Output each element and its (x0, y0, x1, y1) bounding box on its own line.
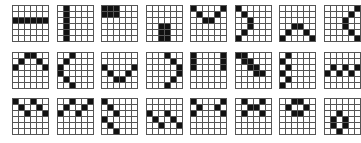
empty-cell (260, 59, 265, 64)
empty-cell (31, 123, 36, 128)
empty-cell (43, 123, 48, 128)
filled-cell (64, 30, 69, 35)
empty-cell (331, 77, 336, 82)
empty-cell (337, 6, 342, 11)
empty-cell (177, 12, 182, 17)
empty-cell (171, 129, 176, 134)
empty-cell (292, 18, 297, 23)
filled-cell (64, 105, 69, 110)
empty-cell (82, 24, 87, 29)
empty-cell (82, 65, 87, 70)
empty-cell (209, 36, 214, 41)
empty-cell (248, 6, 253, 11)
empty-cell (349, 83, 354, 88)
empty-cell (114, 83, 119, 88)
empty-cell (82, 117, 87, 122)
empty-cell (254, 36, 259, 41)
empty-cell (349, 99, 354, 104)
empty-cell (37, 129, 42, 134)
filled-cell (286, 105, 291, 110)
empty-cell (102, 36, 107, 41)
empty-cell (286, 6, 291, 11)
filled-cell (114, 129, 119, 134)
empty-cell (260, 53, 265, 58)
empty-cell (203, 111, 208, 116)
empty-cell (197, 71, 202, 76)
empty-cell (221, 24, 226, 29)
empty-cell (88, 59, 93, 64)
empty-cell (242, 18, 247, 23)
empty-cell (43, 24, 48, 29)
filled-cell (114, 6, 119, 11)
empty-cell (153, 123, 158, 128)
empty-cell (114, 59, 119, 64)
empty-cell (153, 36, 158, 41)
empty-cell (165, 65, 170, 70)
empty-cell (177, 30, 182, 35)
empty-cell (147, 24, 152, 29)
empty-cell (13, 129, 18, 134)
filled-cell (248, 18, 253, 23)
empty-cell (337, 117, 342, 122)
empty-cell (171, 36, 176, 41)
empty-cell (37, 36, 42, 41)
empty-cell (254, 6, 259, 11)
empty-cell (126, 65, 131, 70)
filled-cell (242, 53, 247, 58)
empty-cell (191, 18, 196, 23)
empty-cell (292, 59, 297, 64)
filled-cell (70, 53, 75, 58)
empty-cell (25, 12, 30, 17)
empty-cell (64, 53, 69, 58)
filled-cell (108, 71, 113, 76)
empty-cell (114, 99, 119, 104)
empty-cell (215, 77, 220, 82)
empty-cell (88, 77, 93, 82)
empty-cell (292, 71, 297, 76)
empty-cell (236, 24, 241, 29)
filled-cell (280, 71, 285, 76)
empty-cell (76, 53, 81, 58)
empty-cell (349, 77, 354, 82)
empty-cell (120, 99, 125, 104)
empty-cell (19, 129, 24, 134)
empty-cell (310, 129, 315, 134)
empty-cell (165, 123, 170, 128)
empty-cell (209, 129, 214, 134)
empty-cell (221, 83, 226, 88)
empty-cell (337, 18, 342, 23)
empty-cell (82, 30, 87, 35)
empty-cell (236, 123, 241, 128)
empty-cell (298, 105, 303, 110)
empty-cell (108, 111, 113, 116)
empty-cell (19, 71, 24, 76)
empty-cell (120, 129, 125, 134)
filled-cell (355, 36, 360, 41)
empty-cell (58, 18, 63, 23)
empty-cell (13, 6, 18, 11)
empty-cell (126, 53, 131, 58)
empty-cell (203, 24, 208, 29)
empty-cell (292, 117, 297, 122)
empty-cell (64, 111, 69, 116)
empty-cell (153, 30, 158, 35)
empty-cell (310, 18, 315, 23)
empty-cell (215, 24, 220, 29)
empty-cell (331, 30, 336, 35)
empty-cell (337, 24, 342, 29)
empty-cell (337, 65, 342, 70)
empty-cell (102, 129, 107, 134)
empty-cell (76, 12, 81, 17)
filled-cell (242, 30, 247, 35)
filled-cell (254, 65, 259, 70)
empty-cell (248, 99, 253, 104)
empty-cell (203, 105, 208, 110)
empty-cell (236, 71, 241, 76)
empty-cell (266, 77, 271, 82)
empty-cell (159, 117, 164, 122)
empty-cell (165, 59, 170, 64)
empty-cell (88, 36, 93, 41)
empty-cell (209, 77, 214, 82)
empty-cell (260, 77, 265, 82)
empty-cell (147, 129, 152, 134)
